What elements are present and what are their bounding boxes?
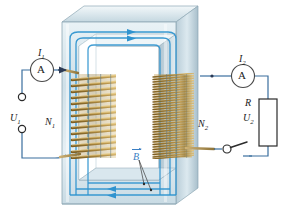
label-current-secondary: I2 bbox=[239, 54, 246, 67]
primary-wire-bottom bbox=[22, 129, 66, 158]
ammeter-secondary-glyph: A bbox=[238, 70, 246, 81]
label-voltage-primary: U1 bbox=[10, 113, 21, 126]
b-leader-dot-1 bbox=[150, 189, 152, 191]
resistor-r[interactable] bbox=[259, 99, 277, 146]
switch-blade[interactable] bbox=[231, 142, 248, 148]
label-turns-primary: N1 bbox=[45, 117, 55, 130]
label-flux-density: B bbox=[133, 152, 139, 162]
primary-coil bbox=[72, 74, 116, 158]
resistor-r-box[interactable] bbox=[259, 99, 277, 146]
core-top-face bbox=[62, 6, 198, 22]
primary-wire-left-up bbox=[22, 70, 30, 97]
secondary-node-top bbox=[210, 74, 213, 77]
secondary-wire-ammeter-to-r bbox=[255, 76, 268, 99]
b-leader-dot-2 bbox=[143, 183, 145, 185]
label-current-primary: I1 bbox=[38, 48, 45, 61]
label-resistor: R bbox=[245, 98, 251, 108]
primary-circuit bbox=[22, 70, 66, 158]
terminal-u1-bottom[interactable] bbox=[18, 125, 25, 132]
transformer-diagram-svg bbox=[0, 0, 284, 224]
label-turns-secondary: N2 bbox=[198, 119, 208, 132]
switch-open[interactable] bbox=[214, 142, 252, 156]
secondary-wire-r-to-switch bbox=[249, 146, 268, 156]
ammeter-primary-glyph: A bbox=[37, 64, 45, 75]
label-voltage-secondary: U2 bbox=[243, 113, 254, 126]
secondary-coil bbox=[153, 73, 194, 159]
switch-pivot[interactable] bbox=[223, 145, 231, 153]
secondary-coil-back-column bbox=[180, 75, 192, 157]
secondary-lead-bottom bbox=[186, 148, 214, 149]
core-window-inner-bottom bbox=[79, 168, 176, 180]
transformer-figure: I1 I2 N1 N2 U1 U2 R B A A bbox=[0, 0, 284, 224]
terminal-u1-top[interactable] bbox=[18, 93, 25, 100]
core-sheen-left bbox=[66, 24, 69, 202]
